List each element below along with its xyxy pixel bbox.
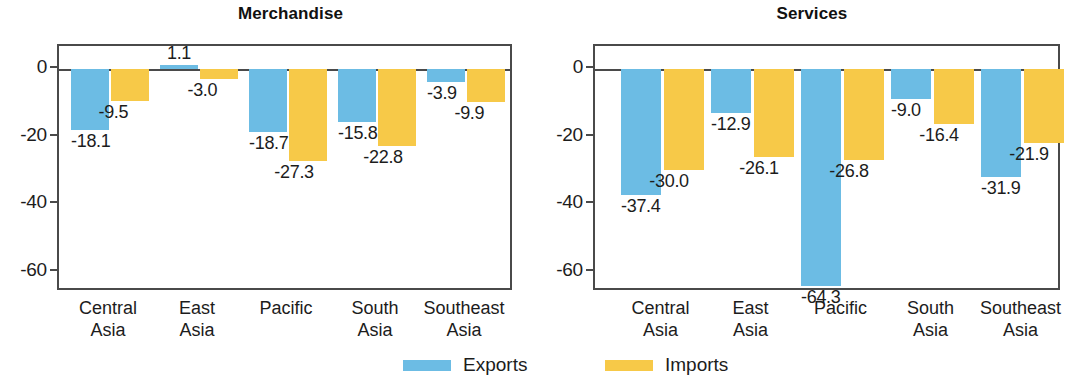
bar-value-label: -9.9 xyxy=(454,103,484,124)
category-line-2: Asia xyxy=(732,319,768,341)
y-axis-tick-mark xyxy=(50,269,57,271)
legend-swatch-exports-icon xyxy=(403,360,451,371)
bar-imports xyxy=(844,69,884,160)
bar-value-label: -22.8 xyxy=(363,147,403,168)
category-line-2: Asia xyxy=(631,319,689,341)
category-line-2: Asia xyxy=(79,319,137,341)
bar-value-label: -18.1 xyxy=(71,131,111,152)
bar-imports xyxy=(754,69,794,157)
category-line-2: Asia xyxy=(980,319,1061,341)
category-line-1: Southeast xyxy=(423,297,504,319)
y-axis-tick-label: 0 xyxy=(573,56,583,78)
bar-value-label: -26.1 xyxy=(739,158,779,179)
y-axis-tick-label: -20 xyxy=(20,124,47,146)
bar-exports xyxy=(891,69,931,99)
bar-exports xyxy=(711,69,751,113)
bar-imports xyxy=(664,69,704,170)
bar-value-label: 1.1 xyxy=(167,43,191,64)
bars-layer-merchandise: -18.1-9.51.1-3.0-18.7-27.3-15.8-22.8-3.9… xyxy=(59,46,510,288)
category-line-1: Southeast xyxy=(980,297,1061,319)
y-axis-tick-mark xyxy=(586,134,593,136)
legend-item-imports: Imports xyxy=(605,352,728,378)
bar-imports xyxy=(934,69,974,124)
panel-title-merchandise: Merchandise xyxy=(0,4,561,24)
x-axis-category-label: SoutheastAsia xyxy=(423,297,504,341)
bar-value-label: -16.4 xyxy=(919,125,959,146)
y-axis-tick-mark xyxy=(586,269,593,271)
y-axis-tick-mark xyxy=(586,66,593,68)
x-axis-category-label: CentralAsia xyxy=(631,297,689,341)
bar-value-label: -3.0 xyxy=(187,80,217,101)
chart-legend: Exports Imports xyxy=(0,352,1083,381)
chart-panel-merchandise: Merchandise -18.1-9.51.1-3.0-18.7-27.3-1… xyxy=(0,0,541,345)
bar-value-label: -18.7 xyxy=(249,133,289,154)
bar-value-label: -26.8 xyxy=(829,161,869,182)
bar-imports xyxy=(200,69,238,79)
category-line-1: East xyxy=(732,297,768,319)
x-axis-category-label: EastAsia xyxy=(732,297,768,341)
y-axis-tick-label: 0 xyxy=(37,56,47,78)
legend-swatch-imports-icon xyxy=(605,360,653,371)
y-axis-tick-label: -60 xyxy=(556,259,583,281)
category-line-1: East xyxy=(179,297,215,319)
category-line-1: South xyxy=(351,297,398,319)
category-line-1: Pacific xyxy=(259,297,312,319)
bar-value-label: -15.8 xyxy=(338,123,378,144)
y-axis-tick-mark xyxy=(586,201,593,203)
bar-value-label: -37.4 xyxy=(621,196,661,217)
bar-value-label: -12.9 xyxy=(711,114,751,135)
category-line-2: Asia xyxy=(179,319,215,341)
y-axis-tick-mark xyxy=(50,134,57,136)
category-line-1: Central xyxy=(631,297,689,319)
chart-panel-services: Services -37.4-30.0-12.9-26.1-64.3-26.8-… xyxy=(541,0,1083,345)
y-axis-tick-mark xyxy=(50,201,57,203)
bar-value-label: -21.9 xyxy=(1009,144,1049,165)
legend-item-exports: Exports xyxy=(403,352,527,378)
category-line-1: South xyxy=(907,297,954,319)
chart-figure: Merchandise -18.1-9.51.1-3.0-18.7-27.3-1… xyxy=(0,0,1083,381)
bar-value-label: -9.0 xyxy=(891,100,921,121)
y-axis-tick-label: -40 xyxy=(20,191,47,213)
bar-value-label: -30.0 xyxy=(649,171,689,192)
category-line-1: Pacific xyxy=(814,297,867,319)
x-axis-category-label: CentralAsia xyxy=(79,297,137,341)
bar-imports xyxy=(1024,69,1064,143)
bar-exports xyxy=(249,69,287,132)
bar-imports xyxy=(111,69,149,101)
x-axis-category-label: SouthAsia xyxy=(907,297,954,341)
bar-imports xyxy=(467,69,505,102)
panel-title-services: Services xyxy=(541,4,1083,24)
x-axis-category-label: Pacific xyxy=(814,297,867,319)
legend-label-imports: Imports xyxy=(665,354,728,376)
bars-layer-services: -37.4-30.0-12.9-26.1-64.3-26.8-9.0-16.4-… xyxy=(595,46,1058,288)
bar-exports xyxy=(427,69,465,82)
x-axis-category-label: EastAsia xyxy=(179,297,215,341)
category-line-2: Asia xyxy=(423,319,504,341)
category-line-1: Central xyxy=(79,297,137,319)
bar-imports xyxy=(289,69,327,161)
category-line-2: Asia xyxy=(351,319,398,341)
bar-value-label: -9.5 xyxy=(98,102,128,123)
x-axis-category-label: Pacific xyxy=(259,297,312,319)
plot-area-merchandise: -18.1-9.51.1-3.0-18.7-27.3-15.8-22.8-3.9… xyxy=(57,44,512,290)
y-axis-tick-label: -40 xyxy=(556,191,583,213)
bar-exports xyxy=(160,65,198,69)
bar-value-label: -27.3 xyxy=(274,162,314,183)
plot-area-services: -37.4-30.0-12.9-26.1-64.3-26.8-9.0-16.4-… xyxy=(593,44,1060,290)
bar-imports xyxy=(378,69,416,146)
bar-value-label: -31.9 xyxy=(981,178,1021,199)
bar-value-label: -3.9 xyxy=(427,83,457,104)
y-axis-tick-mark xyxy=(50,66,57,68)
x-axis-category-label: SoutheastAsia xyxy=(980,297,1061,341)
y-axis-tick-label: -20 xyxy=(556,124,583,146)
bar-exports xyxy=(338,69,376,122)
legend-label-exports: Exports xyxy=(463,354,527,376)
x-axis-category-label: SouthAsia xyxy=(351,297,398,341)
y-axis-tick-label: -60 xyxy=(20,259,47,281)
category-line-2: Asia xyxy=(907,319,954,341)
